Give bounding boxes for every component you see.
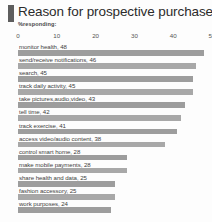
bar-label: share health and data, 25 [19, 174, 87, 181]
bar-row: share health and data, 25 [18, 174, 204, 187]
bar-row: fashion accessory, 25 [18, 187, 204, 200]
bar [18, 194, 115, 200]
x-axis-tick: 50 [209, 31, 212, 40]
bar-label: take pictures,audio,video, 43 [19, 95, 95, 102]
bar [18, 102, 185, 108]
x-axis-tick: 20 [92, 31, 99, 40]
bar-label: track exercise, 41 [19, 122, 66, 129]
plot-area: 01020304050 monitor health, 48send/recei… [18, 31, 204, 213]
bar [18, 76, 193, 82]
bar-row: control smart home, 28 [18, 148, 204, 161]
x-axis-tick: 30 [131, 31, 138, 40]
bar-label: track daily activity, 45 [19, 82, 75, 89]
bar-row: search, 45 [18, 69, 204, 82]
x-axis: 01020304050 [18, 31, 204, 42]
bar-row: work purposes, 24 [18, 200, 204, 213]
bar [18, 50, 204, 56]
chart-title: Reason for prospective purchase [18, 4, 208, 19]
bar [18, 129, 177, 135]
bar-row: make mobile payments, 28 [18, 161, 204, 174]
bar-row: send/receive notifications, 46 [18, 56, 204, 69]
bar-row: monitor health, 48 [18, 43, 204, 56]
bar-row: track daily activity, 45 [18, 82, 204, 95]
bar [18, 89, 193, 95]
bar-label: make mobile payments, 28 [19, 161, 91, 168]
bar-row: take pictures,audio,video, 43 [18, 95, 204, 108]
chart-header: Reason for prospective purchase %respond… [6, 4, 208, 28]
x-axis-tick: 0 [16, 31, 19, 40]
bar-label: control smart home, 28 [19, 148, 80, 155]
bar [18, 168, 127, 174]
bar [18, 142, 165, 148]
chart-subtitle: %responding: [18, 20, 208, 28]
bar-label: send/receive notifications, 46 [19, 56, 96, 63]
header-text: Reason for prospective purchase %respond… [18, 4, 208, 28]
chart-card: Reason for prospective purchase %respond… [0, 0, 212, 222]
bar-label: tell time, 42 [19, 108, 50, 115]
bar-label: access video/audio content, 38 [19, 135, 101, 142]
bar [18, 181, 115, 187]
x-axis-tick: 10 [53, 31, 60, 40]
bar [18, 63, 196, 69]
bar-row: access video/audio content, 38 [18, 135, 204, 148]
bar [18, 115, 181, 121]
bar-label: work purposes, 24 [19, 200, 68, 207]
bar-label: monitor health, 48 [19, 43, 67, 50]
bar-series: monitor health, 48send/receive notificat… [18, 43, 204, 213]
bar [18, 155, 127, 161]
x-axis-tick: 40 [170, 31, 177, 40]
bar-label: fashion accessory, 25 [19, 187, 76, 194]
bar [18, 207, 111, 213]
title-accent-mark [8, 5, 14, 22]
bar-row: track exercise, 41 [18, 122, 204, 135]
bar-label: search, 45 [19, 69, 47, 76]
bar-row: tell time, 42 [18, 108, 204, 121]
